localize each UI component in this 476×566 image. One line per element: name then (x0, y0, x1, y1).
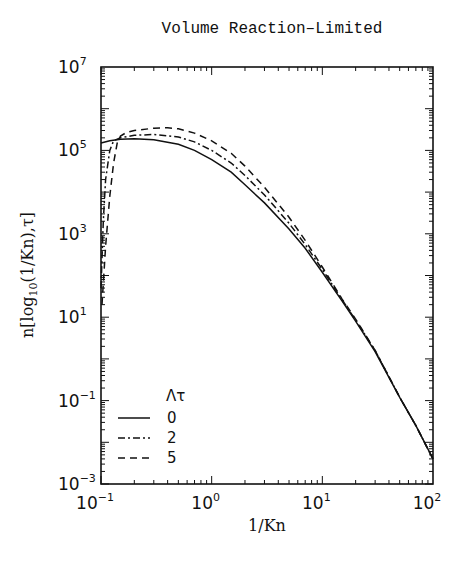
legend-title: Λτ (166, 387, 185, 405)
y-tick-label: 10−1 (58, 389, 96, 411)
chart-title: Volume Reaction–Limited (162, 20, 383, 38)
y-tick-label: 107 (58, 55, 87, 77)
legend-label: 2 (167, 429, 177, 447)
legend-label: 0 (167, 409, 177, 427)
y-tick-label: 105 (58, 138, 87, 160)
y-tick-label: 103 (58, 222, 87, 244)
plot-frame (101, 67, 433, 484)
y-axis-tick-labels: 10710510310110−110−3 (58, 55, 96, 494)
legend-label: 5 (167, 449, 177, 467)
x-tick-label: 100 (191, 491, 220, 513)
x-axis-label: 1/Kn (248, 516, 286, 535)
data-series (101, 128, 433, 459)
series-line-dashed (102, 128, 433, 459)
x-axis-tick-labels: 10−1100101102 (76, 491, 441, 513)
x-tick-label: 101 (302, 491, 331, 513)
x-tick-label: 102 (413, 491, 442, 513)
y-axis-label: n[log10(1/Kn),τ] (18, 212, 40, 338)
x-tick-label: 10−1 (76, 491, 114, 513)
chart: Volume Reaction–Limited 10−1100101102 10… (0, 0, 476, 566)
y-tick-label: 101 (58, 305, 87, 327)
series-line-dash-dot (101, 135, 433, 459)
series-line-solid (101, 139, 433, 459)
svg-text:n[log10(1/Kn),τ]: n[log10(1/Kn),τ] (18, 212, 40, 338)
legend: Λτ 025 (118, 387, 185, 467)
axis-ticks (101, 67, 433, 484)
y-tick-label: 10−3 (58, 472, 96, 494)
